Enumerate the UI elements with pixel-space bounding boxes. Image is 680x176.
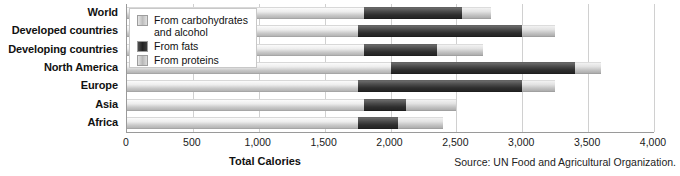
bar-segment-carbohydrates	[127, 99, 364, 111]
calories-stacked-bar-chart: WorldDeveloped countriesDeveloping count…	[0, 0, 680, 176]
legend-swatch-carbohydrates-icon	[137, 15, 148, 26]
x-tick-label: 500	[183, 136, 201, 148]
bar-segment-fats	[358, 80, 523, 92]
legend-item-fats: From fats	[137, 40, 250, 52]
category-label: Developing countries	[8, 44, 118, 55]
bar-row	[127, 99, 456, 111]
legend-item-proteins: From proteins	[137, 54, 250, 66]
x-tick-label: 1,000	[245, 136, 271, 148]
gridline	[654, 4, 655, 132]
category-label: Asia	[95, 99, 118, 110]
bar-segment-proteins	[575, 62, 601, 74]
bar-segment-fats	[364, 44, 436, 56]
legend-swatch-fats-icon	[137, 41, 148, 52]
legend-label-carbohydrates: From carbohydrates and alcohol	[154, 14, 250, 38]
legend-label-fats: From fats	[154, 40, 198, 52]
category-axis-labels: WorldDeveloped countriesDeveloping count…	[0, 4, 118, 132]
legend-item-carbohydrates: From carbohydrates and alcohol	[137, 14, 250, 38]
x-tick-label: 3,000	[508, 136, 534, 148]
bar-segment-fats	[391, 62, 575, 74]
bar-segment-carbohydrates	[127, 117, 358, 129]
bar-segment-fats	[358, 25, 523, 37]
bar-segment-proteins	[462, 7, 491, 19]
category-label: World	[88, 7, 118, 18]
category-label: Developed countries	[12, 25, 118, 36]
bar-segment-fats	[364, 99, 406, 111]
x-tick-label: 4,000	[640, 136, 666, 148]
x-tick-label: 1,500	[310, 136, 336, 148]
category-label: North America	[44, 62, 118, 73]
bar-row	[127, 80, 555, 92]
bar-segment-proteins	[398, 117, 443, 129]
legend-label-proteins: From proteins	[154, 54, 219, 66]
bar-segment-proteins	[406, 99, 456, 111]
bar-segment-fats	[358, 117, 399, 129]
x-tick-label: 3,500	[574, 136, 600, 148]
bar-segment-fats	[364, 7, 461, 19]
x-tick-label: 0	[123, 136, 129, 148]
x-tick-label: 2,500	[442, 136, 468, 148]
bar-segment-proteins	[522, 25, 555, 37]
x-axis-title: Total Calories	[0, 155, 530, 167]
source-note: Source: UN Food and Agricultural Organiz…	[454, 156, 676, 168]
category-label: Africa	[87, 117, 118, 128]
legend-swatch-proteins-icon	[137, 55, 148, 66]
bar-segment-proteins	[437, 44, 483, 56]
value-axis-ticks: 05001,0001,5002,0002,5003,0003,5004,000	[0, 136, 680, 150]
x-tick-label: 2,000	[376, 136, 402, 148]
bar-row	[127, 117, 443, 129]
chart-legend: From carbohydrates and alcohol From fats…	[129, 8, 257, 68]
category-label: Europe	[81, 80, 118, 91]
bar-segment-carbohydrates	[127, 80, 358, 92]
bar-segment-proteins	[522, 80, 555, 92]
